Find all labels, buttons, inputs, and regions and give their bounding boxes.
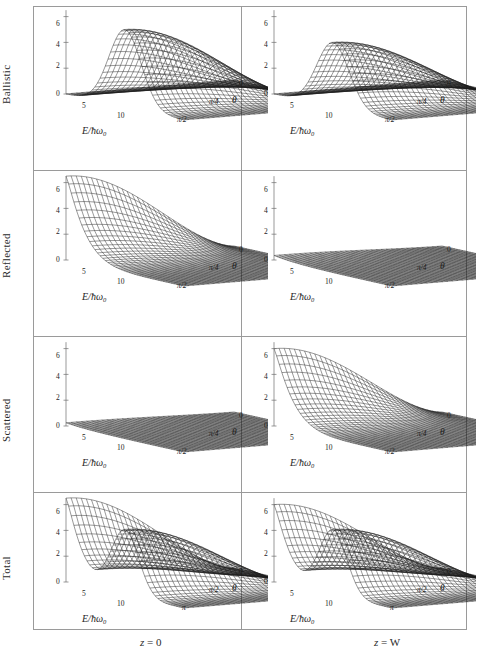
xtick-5: 5 bbox=[290, 433, 294, 442]
xaxis-label: E/ħω0 bbox=[289, 125, 315, 137]
xaxis-label: E/ħω0 bbox=[81, 291, 107, 303]
ztick-6: 6 bbox=[264, 185, 268, 194]
xtick-10: 10 bbox=[325, 443, 333, 452]
ytick-max: π/2 bbox=[177, 447, 187, 456]
panel-ballistic-z0: 6 4 2 0 5 10 E/ħω0 0 π/4 π/2 θ bbox=[34, 8, 268, 164]
ztick-0: 0 bbox=[264, 421, 268, 430]
xtick-5: 5 bbox=[82, 589, 86, 598]
ytick-0: 0 bbox=[447, 79, 451, 88]
ztick-2: 2 bbox=[264, 549, 268, 558]
yaxis-label: θ bbox=[232, 427, 237, 437]
xtick-5: 5 bbox=[82, 101, 86, 110]
xtick-10: 10 bbox=[325, 277, 333, 286]
row-label-ballistic: Ballistic bbox=[0, 22, 28, 146]
ztick-0: 0 bbox=[264, 89, 268, 98]
ztick-4: 4 bbox=[264, 206, 268, 215]
ztick-4: 4 bbox=[264, 528, 268, 537]
panel-total-z0: 6 4 2 0 5 10 E/ħω0 0 π/2 π θ bbox=[34, 496, 268, 652]
surface-mesh-scattered-zW bbox=[272, 342, 477, 452]
ztick-6: 6 bbox=[264, 507, 268, 516]
xaxis-label: E/ħω0 bbox=[289, 457, 315, 469]
ytick-max: π/2 bbox=[177, 115, 187, 124]
yaxis-label: θ bbox=[232, 583, 237, 593]
xaxis-label: E/ħω0 bbox=[81, 613, 107, 625]
xtick-5: 5 bbox=[290, 267, 294, 276]
ztick-4: 4 bbox=[56, 206, 60, 215]
ytick-max: π/2 bbox=[385, 281, 395, 290]
panel-total-zW: 6 4 2 0 5 10 E/ħω0 0 π/2 π θ bbox=[242, 496, 476, 652]
ytick-0: 0 bbox=[447, 567, 451, 576]
ztick-2: 2 bbox=[56, 549, 60, 558]
ztick-4: 4 bbox=[56, 372, 60, 381]
ytick-max: π bbox=[182, 603, 186, 612]
xtick-5: 5 bbox=[290, 589, 294, 598]
ztick-6: 6 bbox=[56, 19, 60, 28]
xtick-10: 10 bbox=[117, 111, 125, 120]
yaxis-label: θ bbox=[440, 427, 445, 437]
xtick-5: 5 bbox=[82, 267, 86, 276]
panel-reflected-z0: 6 4 2 0 5 10 E/ħω0 0 π/4 π/2 θ bbox=[34, 174, 268, 330]
surface-mesh-scattered-z0 bbox=[64, 342, 269, 452]
ytick-mid: π/4 bbox=[209, 97, 219, 106]
ytick-max: π bbox=[390, 603, 394, 612]
ytick-mid: π/2 bbox=[417, 585, 427, 594]
ztick-2: 2 bbox=[56, 61, 60, 70]
surface-mesh-total-z0 bbox=[64, 498, 269, 608]
yaxis-label: θ bbox=[440, 95, 445, 105]
ytick-mid: π/2 bbox=[209, 585, 219, 594]
ztick-2: 2 bbox=[56, 227, 60, 236]
ztick-0: 0 bbox=[56, 255, 60, 264]
yaxis-label: θ bbox=[440, 261, 445, 271]
yaxis-label: θ bbox=[440, 583, 445, 593]
ytick-max: π/2 bbox=[177, 281, 187, 290]
ytick-max: π/2 bbox=[385, 115, 395, 124]
ztick-0: 0 bbox=[56, 89, 60, 98]
ytick-max: π/2 bbox=[385, 447, 395, 456]
row-divider-1 bbox=[33, 170, 467, 171]
ztick-6: 6 bbox=[56, 185, 60, 194]
panel-scattered-zW: 6 4 2 0 5 10 E/ħω0 0 π/4 π/2 θ bbox=[242, 340, 476, 496]
ztick-2: 2 bbox=[264, 227, 268, 236]
xaxis-label: E/ħω0 bbox=[289, 613, 315, 625]
yaxis-label: θ bbox=[232, 95, 237, 105]
surface-mesh-reflected-z0 bbox=[64, 176, 269, 286]
surface-mesh-ballistic-z0 bbox=[64, 10, 269, 120]
xtick-5: 5 bbox=[290, 101, 294, 110]
ztick-4: 4 bbox=[56, 40, 60, 49]
ytick-0: 0 bbox=[447, 245, 451, 254]
yaxis-label: θ bbox=[232, 261, 237, 271]
row-divider-2 bbox=[33, 336, 467, 337]
ytick-mid: π/4 bbox=[417, 429, 427, 438]
xtick-10: 10 bbox=[117, 443, 125, 452]
surface-mesh-total-zW bbox=[272, 498, 477, 608]
ytick-mid: π/4 bbox=[417, 263, 427, 272]
ztick-6: 6 bbox=[56, 351, 60, 360]
panel-scattered-z0: 6 4 2 0 5 10 E/ħω0 0 π/4 π/2 θ bbox=[34, 340, 268, 496]
ytick-mid: π/4 bbox=[209, 429, 219, 438]
xtick-10: 10 bbox=[325, 599, 333, 608]
ztick-0: 0 bbox=[56, 421, 60, 430]
ztick-0: 0 bbox=[264, 577, 268, 586]
ztick-0: 0 bbox=[264, 255, 268, 264]
figure-root: Ballistic Reflected Scattered Total z = … bbox=[0, 0, 480, 664]
ztick-0: 0 bbox=[56, 577, 60, 586]
ytick-mid: π/4 bbox=[417, 97, 427, 106]
xtick-5: 5 bbox=[82, 433, 86, 442]
panel-reflected-zW: 6 4 2 0 5 10 E/ħω0 0 π/4 π/2 θ bbox=[242, 174, 476, 330]
ztick-6: 6 bbox=[56, 507, 60, 516]
row-label-total: Total bbox=[0, 516, 28, 620]
surface-mesh-reflected-zW bbox=[272, 176, 477, 286]
ztick-2: 2 bbox=[56, 393, 60, 402]
surface-mesh-ballistic-zW bbox=[272, 10, 477, 120]
ztick-2: 2 bbox=[264, 393, 268, 402]
ztick-6: 6 bbox=[264, 19, 268, 28]
panel-ballistic-zW: 6 4 2 0 5 10 E/ħω0 0 π/4 π/2 θ bbox=[242, 8, 476, 164]
ytick-mid: π/4 bbox=[209, 263, 219, 272]
row-label-scattered: Scattered bbox=[0, 360, 28, 480]
ztick-2: 2 bbox=[264, 61, 268, 70]
xtick-10: 10 bbox=[325, 111, 333, 120]
ztick-4: 4 bbox=[264, 372, 268, 381]
ztick-4: 4 bbox=[264, 40, 268, 49]
xtick-10: 10 bbox=[117, 277, 125, 286]
xaxis-label: E/ħω0 bbox=[289, 291, 315, 303]
